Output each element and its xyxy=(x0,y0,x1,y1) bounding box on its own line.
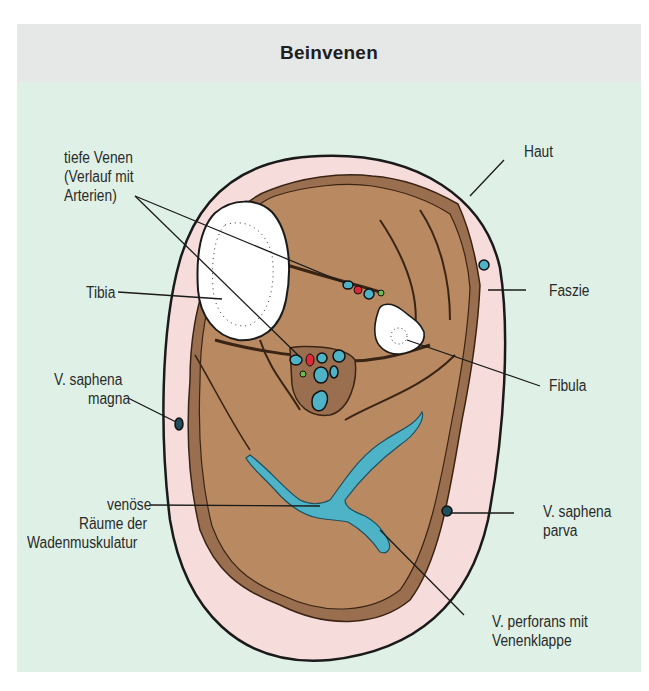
label-tiefe-venen-line3: Arterien) xyxy=(64,186,117,205)
label-faszie: Faszie xyxy=(549,281,590,300)
label-fibula: Fibula xyxy=(549,376,586,395)
label-saphena-parva-line2: parva xyxy=(543,521,577,540)
leg-cross-section-diagram xyxy=(0,0,649,691)
deep-vein xyxy=(314,367,328,383)
label-tiefe-venen: tiefe Venen xyxy=(64,148,133,167)
label-perforans-line2: Venenklappe xyxy=(492,631,572,650)
label-venoese-raeume-line3: Wadenmuskulatur xyxy=(27,533,137,552)
leader-haut xyxy=(470,160,504,196)
label-perforans: V. perforans mit xyxy=(492,612,588,631)
label-saphena-parva: V. saphena xyxy=(543,502,611,521)
artery xyxy=(354,286,362,294)
deep-vein xyxy=(333,350,345,362)
nerve xyxy=(300,371,306,377)
deep-vein xyxy=(317,353,327,363)
nerve xyxy=(378,290,384,296)
saphena-magna-vein xyxy=(175,418,183,430)
deep-vein xyxy=(330,366,338,378)
artery xyxy=(306,354,314,366)
label-venoese-raeume: venöse xyxy=(107,495,151,514)
deep-vein xyxy=(364,289,374,299)
label-saphena-magna: V. saphena xyxy=(54,370,122,389)
label-venoese-raeume-line2: Räume der xyxy=(79,514,147,533)
label-tiefe-venen-line2: (Verlauf mit xyxy=(64,167,134,186)
saphena-parva-vein xyxy=(442,506,452,516)
deep-vein xyxy=(312,391,327,411)
label-saphena-magna-line2: magna xyxy=(88,389,130,408)
label-haut: Haut xyxy=(524,142,553,161)
label-tibia: Tibia xyxy=(86,283,115,302)
superficial-vein xyxy=(479,260,489,270)
